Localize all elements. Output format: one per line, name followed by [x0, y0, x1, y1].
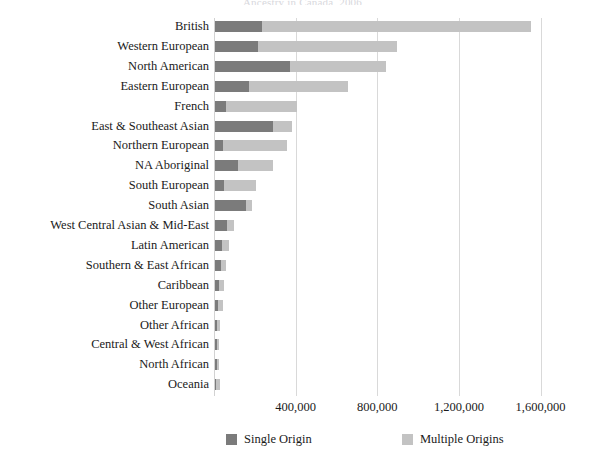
bar-segment-single-origin[interactable]	[215, 81, 249, 92]
bar-row[interactable]	[215, 140, 287, 151]
bar-segment-single-origin[interactable]	[215, 121, 273, 132]
category-label: Other European	[0, 299, 209, 311]
bar-segment-single-origin[interactable]	[215, 41, 258, 52]
x-axis-tick-label: 400,000	[275, 400, 316, 415]
chart-legend: Single Origin Multiple Origins	[0, 432, 605, 452]
bar-segment-single-origin[interactable]	[215, 180, 224, 191]
bar-segment-multiple-origins[interactable]	[238, 160, 273, 171]
category-label: NA Aboriginal	[0, 159, 209, 171]
bar-row[interactable]	[215, 280, 224, 291]
bar-row[interactable]	[215, 21, 531, 32]
value-axis-ticks: 400,000800,0001,200,0001,600,000	[214, 400, 561, 418]
legend-label: Multiple Origins	[420, 432, 504, 447]
bar-segment-single-origin[interactable]	[215, 21, 262, 32]
bar-row[interactable]	[215, 160, 273, 171]
bar-row[interactable]	[215, 300, 223, 311]
x-axis-tick-label: 800,000	[357, 400, 398, 415]
bar-segment-multiple-origins[interactable]	[223, 140, 287, 151]
bar-row[interactable]	[215, 260, 226, 271]
bar-segment-multiple-origins[interactable]	[273, 121, 292, 132]
bar-segment-multiple-origins[interactable]	[221, 260, 227, 271]
bar-segment-single-origin[interactable]	[215, 101, 226, 112]
bar-segment-multiple-origins[interactable]	[217, 320, 220, 331]
chart-title-cropped: Ancestry in Canada, 2006	[0, 0, 605, 5]
category-label: Oceania	[0, 378, 209, 390]
category-label: Western European	[0, 40, 209, 52]
bar-segment-single-origin[interactable]	[215, 140, 223, 151]
x-axis-tick-label: 1,600,000	[516, 400, 566, 415]
category-label: Northern European	[0, 139, 209, 151]
bar-segment-multiple-origins[interactable]	[226, 101, 297, 112]
category-label: Central & West African	[0, 338, 209, 350]
bar-row[interactable]	[215, 101, 297, 112]
bar-segment-multiple-origins[interactable]	[224, 180, 255, 191]
bar-segment-single-origin[interactable]	[215, 240, 222, 251]
bar-segment-multiple-origins[interactable]	[249, 81, 348, 92]
bar-segment-multiple-origins[interactable]	[217, 359, 219, 370]
legend-swatch-icon	[226, 434, 237, 445]
category-label: South Asian	[0, 199, 209, 211]
category-label: French	[0, 100, 209, 112]
bar-row[interactable]	[215, 379, 220, 390]
category-label: Southern & East African	[0, 259, 209, 271]
category-label: North American	[0, 60, 209, 72]
category-label: West Central Asian & Mid-East	[0, 219, 209, 231]
bar-segment-multiple-origins[interactable]	[216, 379, 220, 390]
bar-segment-single-origin[interactable]	[215, 220, 227, 231]
category-label: East & Southeast Asian	[0, 120, 209, 132]
bar-row[interactable]	[215, 339, 219, 350]
bar-row[interactable]	[215, 81, 348, 92]
bar-segment-single-origin[interactable]	[215, 61, 290, 72]
category-axis-labels: BritishWestern EuropeanNorth AmericanEas…	[0, 18, 209, 396]
x-axis-tick-label: 1,200,000	[434, 400, 484, 415]
bar-row[interactable]	[215, 200, 252, 211]
category-label: North African	[0, 358, 209, 370]
category-label: Eastern European	[0, 80, 209, 92]
bar-chart: Ancestry in Canada, 2006 BritishWestern …	[0, 0, 605, 465]
bar-segment-multiple-origins[interactable]	[217, 339, 219, 350]
bar-row[interactable]	[215, 240, 229, 251]
bar-row[interactable]	[215, 41, 397, 52]
bar-segment-single-origin[interactable]	[215, 200, 246, 211]
legend-item-single-origin[interactable]: Single Origin	[226, 432, 312, 447]
category-label: Latin American	[0, 239, 209, 251]
bar-row[interactable]	[215, 220, 234, 231]
bar-segment-multiple-origins[interactable]	[258, 41, 397, 52]
category-label: Caribbean	[0, 279, 209, 291]
bar-segment-multiple-origins[interactable]	[246, 200, 252, 211]
bar-segment-multiple-origins[interactable]	[219, 280, 224, 291]
bar-segment-multiple-origins[interactable]	[262, 21, 531, 32]
bar-row[interactable]	[215, 180, 256, 191]
bar-series-group	[214, 18, 561, 396]
legend-label: Single Origin	[244, 432, 312, 447]
bar-row[interactable]	[215, 61, 386, 72]
bar-row[interactable]	[215, 359, 219, 370]
bar-segment-multiple-origins[interactable]	[222, 240, 229, 251]
category-label: South European	[0, 179, 209, 191]
bar-segment-multiple-origins[interactable]	[227, 220, 234, 231]
bar-segment-single-origin[interactable]	[215, 160, 238, 171]
legend-item-multiple-origins[interactable]: Multiple Origins	[402, 432, 504, 447]
plot-area	[214, 18, 561, 396]
bar-segment-multiple-origins[interactable]	[290, 61, 386, 72]
bar-row[interactable]	[215, 320, 220, 331]
category-label: British	[0, 20, 209, 32]
category-label: Other African	[0, 319, 209, 331]
legend-swatch-icon	[402, 434, 413, 445]
bar-row[interactable]	[215, 121, 292, 132]
bar-segment-multiple-origins[interactable]	[218, 300, 223, 311]
